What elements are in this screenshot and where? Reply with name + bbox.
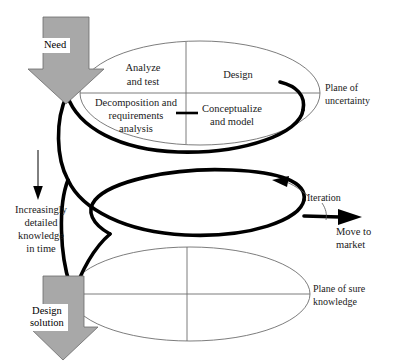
time-axis-label-line2: detailed	[24, 217, 58, 228]
spiral-design-process-diagram: Analyze and test Design Decomposition an…	[0, 0, 395, 362]
plane-uncertainty-label-line2: uncertainty	[325, 95, 370, 106]
move-to-market-shaft	[304, 216, 340, 217]
need-block-arrow-shape	[28, 17, 104, 104]
iteration-arrow: Iteration	[272, 176, 341, 203]
quadrant-label-design-line1: Design	[223, 69, 253, 80]
helix-left-link-1	[58, 95, 68, 180]
quadrant-label-decomposition-line3: analysis	[119, 123, 153, 134]
plane-uncertainty-quadrant-labels: Analyze and test Design Decomposition an…	[95, 62, 262, 134]
design-spiral-helix	[58, 82, 304, 300]
need-label: Need	[40, 38, 70, 53]
move-to-market-label-line1: Move to	[336, 226, 371, 237]
plane-uncertainty-label-line1: Plane of	[325, 82, 359, 93]
quadrant-label-decomposition-line1: Decomposition and	[95, 97, 178, 108]
time-axis-label-line4: in time	[26, 243, 56, 254]
time-axis-label-line3: knowledge	[18, 230, 64, 241]
move-to-market-arrowhead-right-icon	[338, 209, 362, 225]
plane-sure-knowledge-label-line2: knowledge	[313, 296, 357, 307]
plane-sure-knowledge	[70, 247, 310, 341]
helix-turn-1-back	[280, 82, 304, 110]
quadrant-label-conceptualize-line2: and model	[210, 116, 254, 127]
iteration-label: Iteration	[307, 192, 341, 203]
time-axis-arrowhead-down-icon	[33, 186, 43, 200]
time-axis-arrow	[33, 150, 43, 200]
time-axis-label-line1: Increasingly	[15, 204, 68, 215]
design-solution-label-line1: Design	[30, 305, 64, 317]
helix-turn-2-front	[68, 180, 304, 235]
need-block-arrow	[28, 17, 104, 104]
design-solution-label: Design solution	[26, 304, 68, 331]
quadrant-label-conceptualize-line1: Conceptualize	[202, 103, 262, 114]
plane-sure-knowledge-caption: Plane of sure knowledge	[313, 283, 366, 307]
quadrant-label-decomposition-line2: requirements	[109, 110, 164, 121]
plane-uncertainty-caption: Plane of uncertainty	[325, 82, 370, 106]
design-solution-label-line2: solution	[30, 317, 64, 329]
quadrant-label-analyze-line2: and test	[127, 76, 159, 87]
move-to-market-label-line2: market	[336, 239, 365, 250]
quadrant-label-analyze-line1: Analyze	[126, 62, 161, 73]
plane-uncertainty	[80, 41, 320, 145]
move-to-market-arrow: Move to market	[304, 203, 371, 250]
plane-sure-knowledge-label-line1: Plane of sure	[313, 283, 366, 294]
